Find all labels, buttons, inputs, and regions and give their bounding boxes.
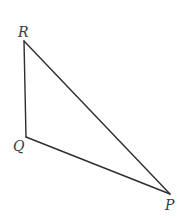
vertex-label-p: P [165,198,174,212]
vertex-label-r: R [18,25,29,39]
vertex-label-q: Q [13,139,24,153]
edge-rq [24,41,26,137]
edge-pr [24,41,170,194]
triangle-diagram: R Q P [0,0,182,219]
edge-qp [26,137,170,194]
